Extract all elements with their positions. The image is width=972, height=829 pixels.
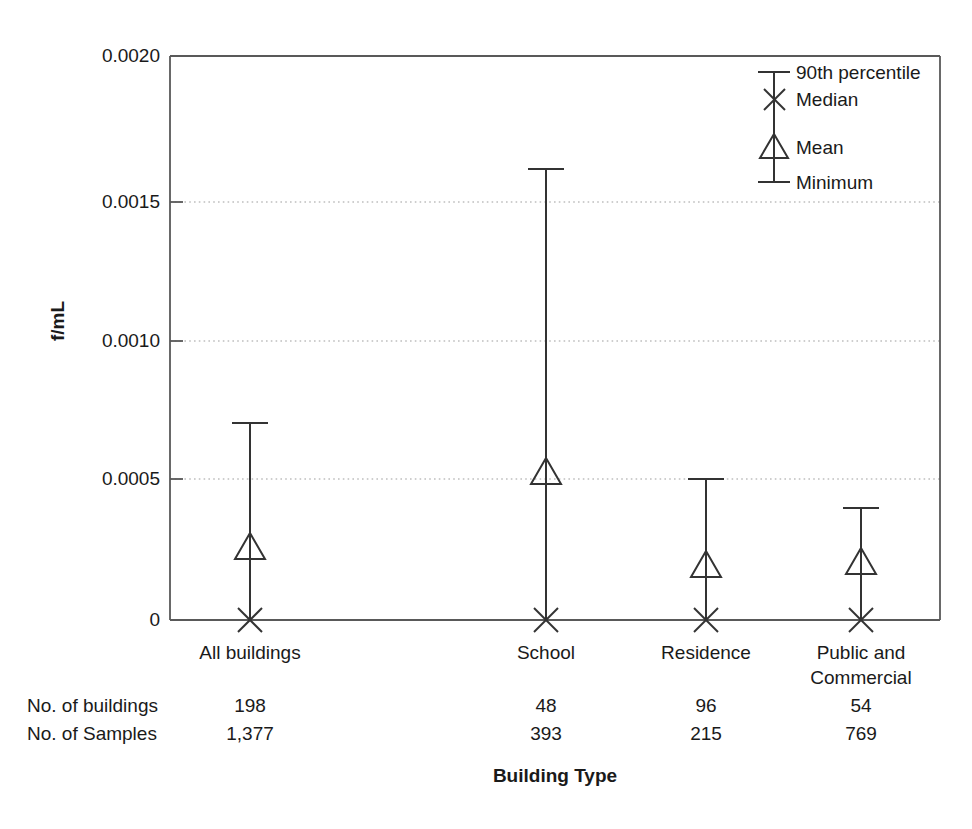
table-row-label-no-of-buildings: No. of buildings [27, 695, 158, 717]
category-label-all-buildings: All buildings [150, 640, 350, 665]
category-label-line2: Commercial [761, 665, 961, 690]
legend-glyphs [758, 72, 790, 182]
table-cell-samples-all-buildings: 1,377 [150, 723, 350, 745]
y-tick-label-0.0005: 0.0005 [15, 468, 160, 490]
legend-label-minimum: Minimum [796, 172, 873, 194]
y-axis-title: f/mL [47, 271, 69, 371]
x-axis-title: Building Type [455, 765, 655, 787]
table-cell-buildings-public-and-commercial: 54 [761, 695, 961, 717]
category-label-line1: Public and [761, 640, 961, 665]
series-all-buildings [232, 423, 268, 632]
y-tick-label-0.0015: 0.0015 [15, 191, 160, 213]
legend-label-mean: Mean [796, 137, 844, 159]
y-tick-label-0.0020: 0.0020 [15, 45, 160, 67]
table-row-label-no-of-samples: No. of Samples [27, 723, 157, 745]
legend-label-median: Median [796, 89, 858, 111]
chart-figure: 0.0020 0.0015 0.0010 0.0005 0 f/mL 90th … [0, 0, 972, 829]
series-school [528, 169, 564, 632]
y-tick-label-0: 0 [15, 609, 160, 631]
table-cell-samples-public-and-commercial: 769 [761, 723, 961, 745]
gridlines [170, 202, 940, 479]
y-tick-marks [170, 202, 183, 479]
table-cell-buildings-all-buildings: 198 [150, 695, 350, 717]
category-label-public-and-commercial: Public and Commercial [761, 640, 961, 690]
y-tick-label-0.0010: 0.0010 [15, 330, 160, 352]
series-residence [688, 479, 724, 632]
legend-label-90th-percentile: 90th percentile [796, 62, 921, 84]
category-label-line1: All buildings [150, 640, 350, 665]
series-public-and-commercial [843, 508, 879, 632]
